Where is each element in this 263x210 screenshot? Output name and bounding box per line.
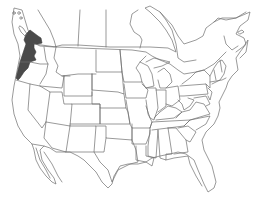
north-america-outline-map xyxy=(0,0,263,210)
pei xyxy=(238,30,244,34)
manitoba-ontario-border xyxy=(130,10,142,48)
alberta-saskatchewan-border xyxy=(78,10,80,46)
range-map xyxy=(0,0,263,210)
